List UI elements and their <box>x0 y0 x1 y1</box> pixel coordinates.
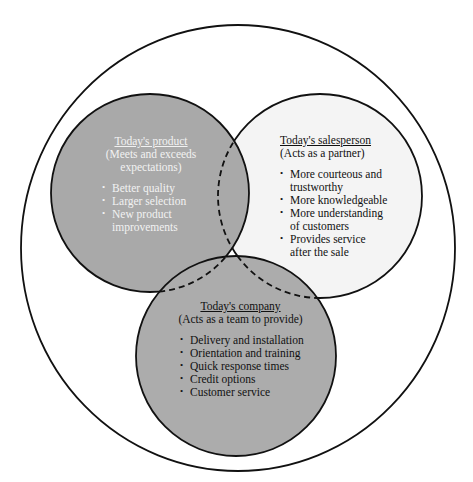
salesperson-text: Today's salesperson (Acts as a partner) … <box>280 134 405 259</box>
list-item: Delivery and installation <box>180 334 313 347</box>
product-subtitle: (Meets and exceeds expectations) <box>92 148 210 174</box>
list-item: More understanding of customers <box>280 207 395 233</box>
salesperson-subtitle: (Acts as a partner) <box>280 147 405 160</box>
list-item: Orientation and training <box>180 347 313 360</box>
company-subtitle: (Acts as a team to provide) <box>168 313 313 326</box>
product-title: Today's product <box>92 135 210 148</box>
company-text: Today's company (Acts as a team to provi… <box>168 300 313 399</box>
product-list: Better quality Larger selection New prod… <box>102 182 210 234</box>
salesperson-list: More courteous and trustworthy More know… <box>280 168 405 259</box>
list-item: Credit options <box>180 373 313 386</box>
list-item: More courteous and trustworthy <box>280 168 400 194</box>
list-item: Larger selection <box>102 195 210 208</box>
list-item: Better quality <box>102 182 210 195</box>
list-item: More knowledgeable <box>280 194 405 207</box>
list-item: Provides service after the sale <box>280 233 380 259</box>
company-list: Delivery and installation Orientation an… <box>180 334 313 399</box>
product-text: Today's product (Meets and exceeds expec… <box>92 135 210 234</box>
company-title: Today's company <box>168 300 313 313</box>
salesperson-title: Today's salesperson <box>280 134 405 147</box>
list-item: Quick response times <box>180 360 313 373</box>
list-item: New product improvements <box>102 208 192 234</box>
list-item: Customer service <box>180 386 313 399</box>
